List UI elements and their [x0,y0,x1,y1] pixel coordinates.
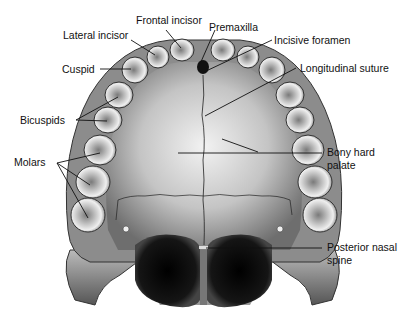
label-premaxilla: Premaxilla [209,21,258,33]
frontal-incisor-right [211,39,235,61]
molar-right-3 [303,198,337,232]
bicuspid-left-1 [105,82,133,108]
molar-left-2 [76,166,110,198]
label-cuspid: Cuspid [62,63,95,75]
lateral-incisor-left [147,46,169,68]
label-posterior-nasal-spine-line1: Posterior nasal [327,241,397,253]
molar-right-1 [292,135,324,165]
palate-diagram: Frontal incisor Lateral incisor Premaxil… [0,0,409,318]
label-bicuspids: Bicuspids [20,114,65,126]
bicuspid-left-2 [94,107,122,133]
bicuspid-right-1 [276,82,304,108]
label-bony-hard-palate-line2: palate [327,159,356,171]
lateral-incisor-right [237,46,259,68]
bicuspid-right-2 [286,107,314,133]
label-lateral-incisor: Lateral incisor [63,29,128,41]
molar-left-1 [84,135,116,165]
cuspid-right [259,57,285,83]
frontal-incisor-left [170,39,194,61]
cuspid-left [122,57,148,83]
label-frontal-incisor: Frontal incisor [136,14,202,26]
label-incisive-foramen: Incisive foramen [274,34,350,46]
label-bony-hard-palate-line1: Bony hard [327,146,375,158]
molar-left-3 [71,198,105,232]
label-longitudinal-suture: Longitudinal suture [300,62,389,74]
bleed-through-text [6,0,406,4]
label-molars: Molars [14,156,46,168]
label-posterior-nasal-spine-line2: spine [327,254,352,266]
